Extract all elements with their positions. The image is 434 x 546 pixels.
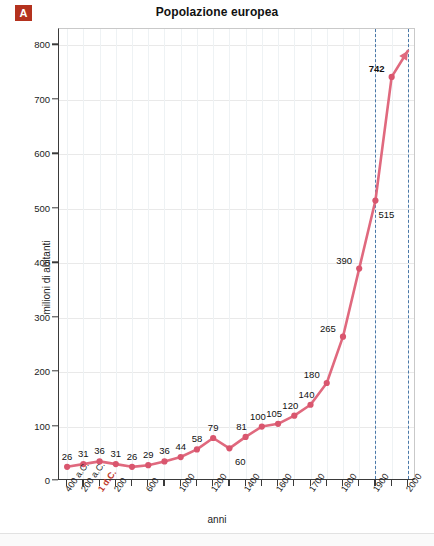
data-point-marker — [129, 464, 135, 470]
data-point-marker — [194, 446, 200, 452]
y-tick-label: 800 — [10, 39, 50, 50]
y-tick-label: 400 — [10, 257, 50, 268]
data-point-marker — [210, 435, 216, 441]
data-point-marker — [372, 197, 378, 203]
footer-strip — [0, 533, 434, 546]
y-tick-mark — [52, 316, 58, 317]
y-tick-label: 600 — [10, 148, 50, 159]
y-tick-mark — [52, 44, 58, 45]
data-point-marker — [307, 402, 313, 408]
data-point-marker — [389, 74, 395, 80]
x-tick-mark — [326, 480, 327, 486]
x-axis-label: anni — [0, 514, 434, 525]
y-tick-label: 200 — [10, 366, 50, 377]
y-tick-label: 700 — [10, 93, 50, 104]
data-point-marker — [113, 461, 119, 467]
data-point-marker — [259, 423, 265, 429]
population-line-series — [59, 29, 416, 481]
x-tick-mark — [131, 480, 132, 486]
data-point-marker — [64, 464, 70, 470]
y-tick-mark — [52, 98, 58, 99]
y-tick-mark — [52, 370, 58, 371]
y-tick-mark — [52, 479, 58, 480]
data-point-marker — [243, 434, 249, 440]
data-point-marker — [324, 380, 330, 386]
data-point-marker — [356, 266, 362, 272]
data-point-marker — [161, 458, 167, 464]
series-line — [67, 51, 408, 467]
plot-area: 2631363126293644587960811001051201401802… — [58, 28, 415, 480]
data-point-marker — [178, 454, 184, 460]
x-tick-mark — [163, 480, 164, 486]
y-tick-mark — [52, 425, 58, 426]
x-tick-mark — [228, 480, 229, 486]
x-tick-mark — [196, 480, 197, 486]
y-tick-label: 500 — [10, 202, 50, 213]
x-tick-mark — [293, 480, 294, 486]
data-point-marker — [291, 413, 297, 419]
y-tick-label: 100 — [10, 420, 50, 431]
data-point-marker — [340, 334, 346, 340]
y-tick-mark — [52, 153, 58, 154]
data-point-marker — [145, 462, 151, 468]
x-tick-mark — [358, 480, 359, 486]
y-tick-label: 0 — [10, 475, 50, 486]
data-point-marker — [226, 445, 232, 451]
x-tick-mark — [261, 480, 262, 486]
y-tick-label: 300 — [10, 311, 50, 322]
chart-title: Popolazione europea — [0, 5, 434, 19]
y-tick-mark — [52, 261, 58, 262]
x-tick-mark — [391, 480, 392, 486]
data-point-marker — [275, 421, 281, 427]
y-tick-mark — [52, 207, 58, 208]
